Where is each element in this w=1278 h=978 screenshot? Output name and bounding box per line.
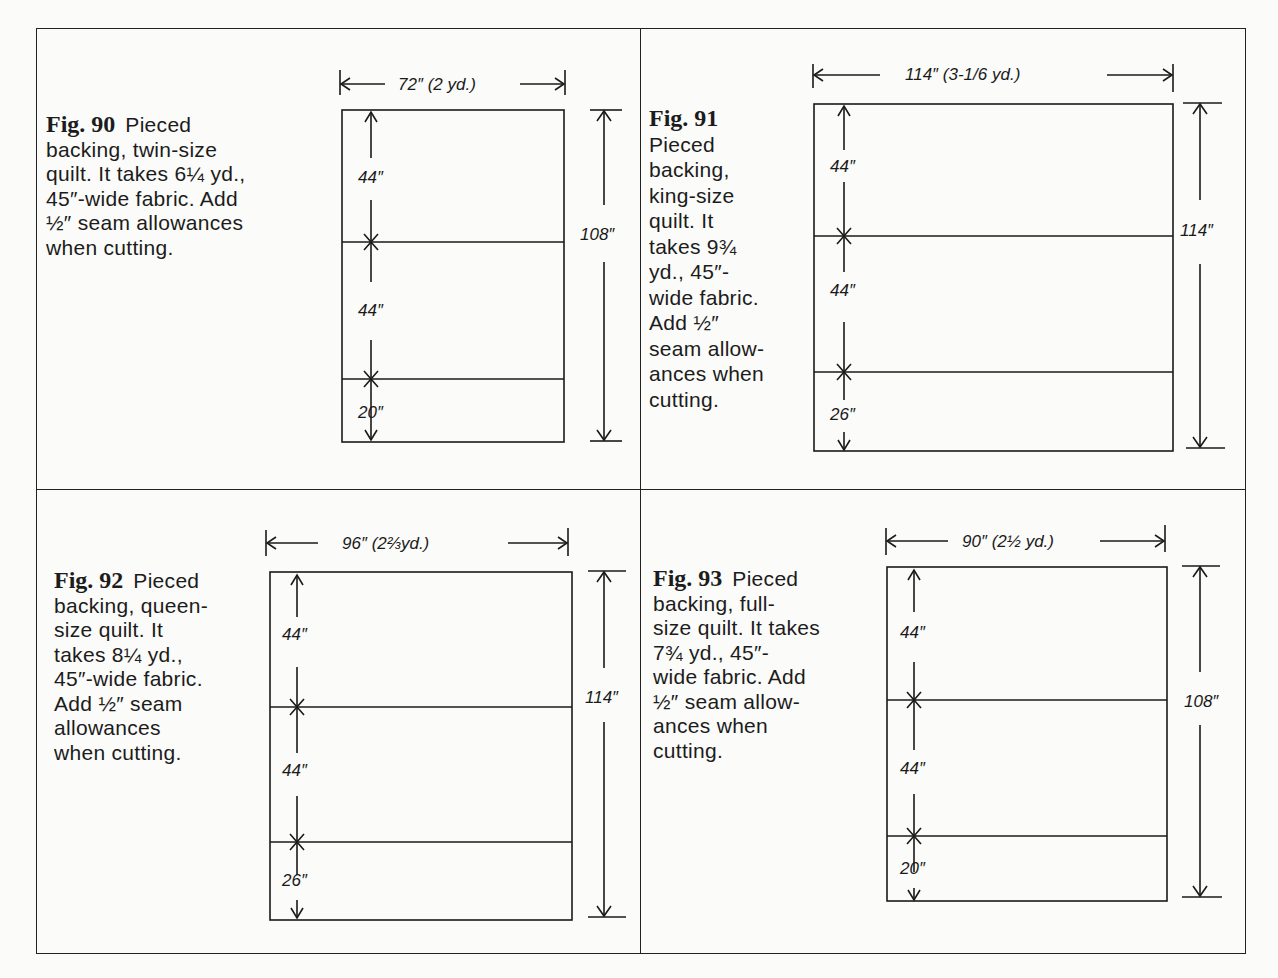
fig-92-panel-3-label: 26″ bbox=[281, 871, 308, 890]
fig-93-diagram: 90″ (2½ yd.) 44″ 44″ 20″ 108″ bbox=[886, 525, 1222, 901]
fig-93-panel-3-label: 20″ bbox=[899, 859, 926, 878]
fig-92-width-label: 96″ (2⅔yd.) bbox=[342, 534, 429, 553]
fig-91-panel-2-label: 44″ bbox=[830, 281, 856, 300]
fig-90-panel-1-label: 44″ bbox=[358, 168, 384, 187]
fig-91-diagram: 114″ (3-1/6 yd.) 44″ 44″ 26″ 114″ bbox=[813, 64, 1225, 451]
fig-93-height-label: 108″ bbox=[1184, 692, 1219, 711]
fig-93-panel-2-label: 44″ bbox=[900, 759, 926, 778]
fig-90-panel-2-label: 44″ bbox=[358, 301, 384, 320]
fig-91-height-label: 114″ bbox=[1180, 221, 1214, 240]
fig-93-panel-1-label: 44″ bbox=[900, 623, 926, 642]
fig-91-width-label: 114″ (3-1/6 yd.) bbox=[905, 65, 1020, 84]
fig-92-height-label: 114″ bbox=[585, 688, 619, 707]
fig-90-width-label: 72″ (2 yd.) bbox=[398, 75, 476, 94]
fig-92-panel-1-label: 44″ bbox=[282, 625, 308, 644]
fig-90-panel-3-label: 20″ bbox=[357, 403, 384, 422]
fig-92-panel-2-label: 44″ bbox=[282, 761, 308, 780]
fig-90-diagram: 72″ (2 yd.) 44″ 44″ 20″ 108″ bbox=[340, 70, 622, 442]
fig-91-panel-1-label: 44″ bbox=[830, 157, 856, 176]
fig-90-height-label: 108″ bbox=[580, 225, 615, 244]
fig-93-width-label: 90″ (2½ yd.) bbox=[962, 532, 1054, 551]
backing-diagrams: 72″ (2 yd.) 44″ 44″ 20″ 108″ 114″ (3-1/6… bbox=[0, 0, 1278, 978]
fig-91-panel-3-label: 26″ bbox=[829, 405, 856, 424]
fig-92-diagram: 96″ (2⅔yd.) 44″ 44″ 26″ 114″ bbox=[266, 528, 626, 920]
